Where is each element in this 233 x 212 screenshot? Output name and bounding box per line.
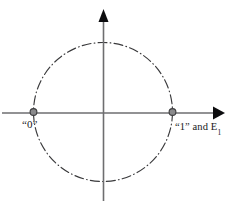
point-marker-zero	[30, 109, 37, 116]
point-label-one-text: “1” and E	[175, 121, 217, 132]
unit-circle-figure: “0” “1” and E1	[0, 0, 233, 212]
point-label-zero: “0”	[22, 119, 38, 130]
point-label-one: “1” and E1	[175, 122, 221, 135]
vertical-axis-arrowhead	[99, 9, 109, 22]
point-label-one-subscript: 1	[217, 128, 221, 137]
horizontal-axis-arrowhead	[213, 107, 225, 120]
point-marker-one	[169, 109, 176, 116]
figure-canvas	[0, 0, 233, 212]
